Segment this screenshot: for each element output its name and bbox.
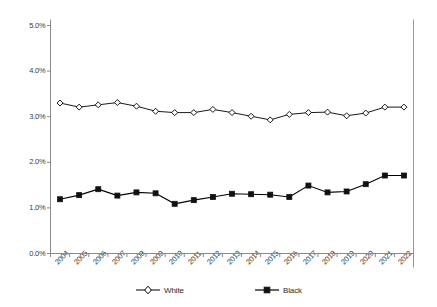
data-point-marker: [306, 183, 311, 188]
data-point-marker: [229, 110, 235, 116]
data-point-marker: [401, 173, 406, 178]
open-diamond-marker-icon: [135, 285, 161, 295]
legend-label-black: Black: [283, 286, 302, 295]
data-point-marker: [344, 113, 350, 119]
data-point-marker: [96, 187, 101, 192]
data-point-marker: [172, 110, 178, 116]
data-point-marker: [401, 104, 407, 110]
data-point-marker: [58, 197, 63, 202]
data-point-marker: [172, 201, 177, 206]
data-point-marker: [363, 110, 369, 116]
data-point-marker: [95, 102, 101, 108]
data-point-marker: [114, 100, 120, 106]
legend-item-white[interactable]: White: [135, 285, 184, 295]
data-point-marker: [344, 189, 349, 194]
data-point-marker: [249, 192, 254, 197]
data-point-marker: [191, 110, 197, 116]
data-point-marker: [305, 110, 311, 116]
series-black: [58, 173, 407, 206]
series-white: [57, 100, 407, 123]
data-point-marker: [115, 193, 120, 198]
data-point-marker: [230, 191, 235, 196]
data-point-marker: [287, 194, 292, 199]
data-point-marker: [210, 106, 216, 112]
data-point-marker: [382, 104, 388, 110]
plot-area: [0, 0, 437, 307]
legend-label-white: White: [164, 286, 184, 295]
data-point-marker: [134, 190, 139, 195]
data-point-marker: [191, 198, 196, 203]
data-point-marker: [248, 113, 254, 119]
data-point-marker: [153, 191, 158, 196]
filled-square-marker-icon: [254, 285, 280, 295]
legend-item-black[interactable]: Black: [254, 285, 302, 295]
data-point-marker: [382, 173, 387, 178]
data-point-marker: [286, 111, 292, 117]
data-point-marker: [325, 109, 331, 115]
line-chart: 0.0%1.0%2.0%3.0%4.0%5.0% 200420052006200…: [0, 0, 437, 307]
series-line-black: [60, 176, 404, 204]
chart-legend: White Black: [0, 285, 437, 295]
data-point-marker: [76, 104, 82, 110]
data-point-marker: [133, 103, 139, 109]
data-point-marker: [57, 100, 63, 106]
data-point-marker: [77, 193, 82, 198]
data-point-marker: [210, 194, 215, 199]
data-point-marker: [363, 182, 368, 187]
data-point-marker: [267, 117, 273, 123]
data-point-marker: [268, 192, 273, 197]
data-point-marker: [153, 108, 159, 114]
data-point-marker: [325, 190, 330, 195]
